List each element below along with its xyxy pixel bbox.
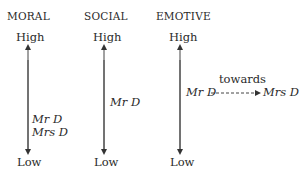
- social-heading: SOCIAL: [84, 11, 128, 22]
- moral-low-label: Low: [17, 157, 41, 169]
- emotive-low-label: Low: [170, 157, 194, 169]
- social-marker-mr-d: Mr D: [110, 97, 140, 109]
- social-low-label: Low: [94, 157, 118, 169]
- moral-marker-mrs-d: Mrs D: [32, 127, 68, 139]
- axes-layer: [0, 0, 308, 177]
- emotive-heading: EMOTIVE: [156, 11, 211, 22]
- moral-heading: MORAL: [7, 11, 50, 22]
- towards-label: towards: [219, 74, 266, 86]
- emotive-marker-mrs-d: Mrs D: [263, 87, 299, 99]
- social-high-label: High: [93, 32, 121, 44]
- emotive-high-label: High: [169, 32, 197, 44]
- emotive-marker-mr-d: Mr D: [186, 87, 216, 99]
- moral-high-label: High: [16, 32, 44, 44]
- moral-marker-mr-d: Mr D: [32, 114, 62, 126]
